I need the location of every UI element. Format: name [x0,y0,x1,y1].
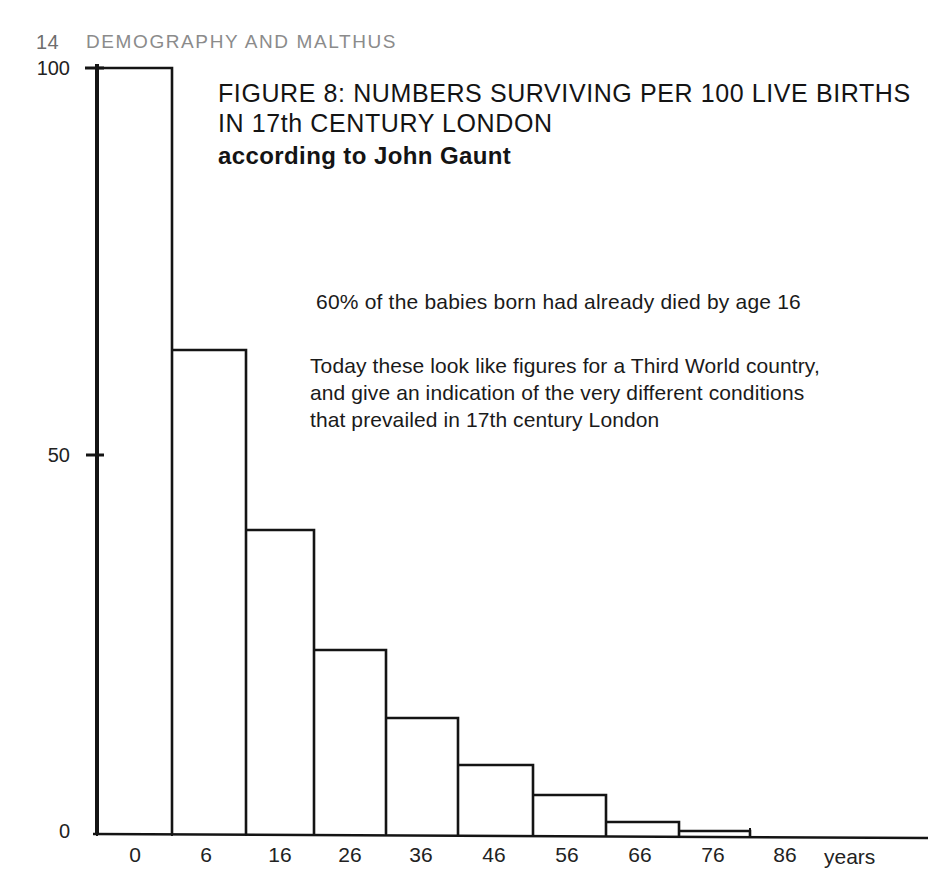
figure-title: FIGURE 8: NUMBERS SURVIVING PER 100 LIVE… [218,78,918,138]
annotation-commentary: Today these look like figures for a Thir… [310,352,910,433]
x-tick-label-46: 46 [464,843,524,867]
annotation-commentary-line1: Today these look like figures for a Thir… [310,352,910,379]
x-tick-label-66: 66 [610,843,670,867]
x-tick-label-86: 86 [755,843,815,867]
bar-group [97,68,750,838]
bar-0-6 [97,68,172,834]
annotation-commentary-line3: that prevailed in 17th century London [310,406,910,433]
page-canvas: 14 DEMOGRAPHY AND MALTHUS [0,0,940,884]
figure-subtitle: according to John Gaunt [218,142,511,170]
x-tick-label-0: 0 [105,843,165,867]
bar-6-16 [172,350,246,834]
x-tick-label-26: 26 [320,843,380,867]
x-tick-label-36: 36 [391,843,451,867]
bar-46-56 [458,765,533,835]
figure-title-line2: IN 17th CENTURY LONDON [218,108,918,138]
bar-36-46 [386,718,458,835]
x-axis-line [93,834,928,838]
annotation-mortality: 60% of the babies born had already died … [316,290,801,314]
y-tick-label-100: 100 [22,57,70,80]
x-axis-caption: years [824,845,875,869]
x-tick-label-76: 76 [683,843,743,867]
y-tick-label-0: 0 [22,820,70,843]
x-tick-label-56: 56 [537,843,597,867]
bar-26-36 [314,650,386,834]
y-tick-label-50: 50 [22,444,70,467]
bar-16-26 [246,530,314,834]
x-tick-label-6: 6 [176,843,236,867]
figure-chart: FIGURE 8: NUMBERS SURVIVING PER 100 LIVE… [0,0,940,884]
bar-56-66 [533,795,606,836]
annotation-commentary-line2: and give an indication of the very diffe… [310,379,910,406]
bar-66-76 [606,822,679,837]
figure-title-line1: FIGURE 8: NUMBERS SURVIVING PER 100 LIVE… [218,79,911,107]
x-tick-label-16: 16 [250,843,310,867]
